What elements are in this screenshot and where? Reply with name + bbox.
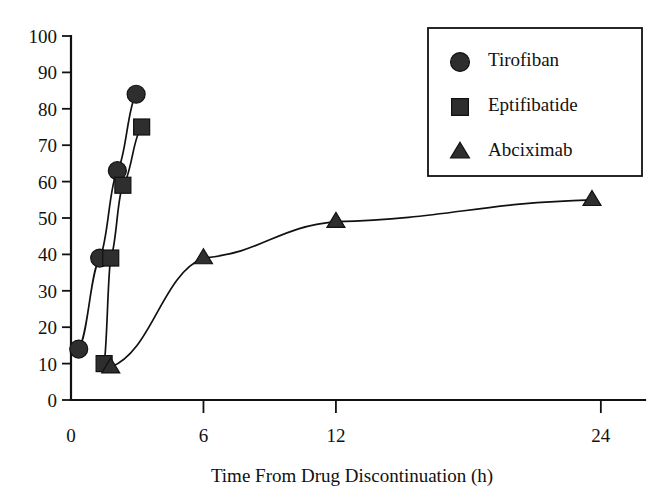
data-point-abciximab-2 — [327, 212, 345, 227]
data-point-eptifibatide-2 — [115, 177, 131, 193]
legend-marker-tirofiban — [451, 53, 470, 72]
legend-label-tirofiban: Tirofiban — [488, 49, 560, 70]
legend-marker-eptifibatide — [452, 99, 469, 116]
y-tick-label-90: 90 — [38, 62, 57, 83]
x-tick-label-6: 6 — [199, 425, 209, 446]
y-tick-label-100: 100 — [29, 26, 58, 47]
y-tick-label-10: 10 — [38, 354, 57, 375]
series-abciximab — [102, 191, 601, 373]
y-tick-label-50: 50 — [38, 208, 57, 229]
x-axis-title: Time From Drug Discontinuation (h) — [211, 465, 493, 487]
x-axis: 061224 — [66, 400, 645, 446]
y-tick-label-70: 70 — [38, 135, 57, 156]
drug-platelet-recovery-chart: 0102030405060708090100 061224 TirofibanE… — [0, 0, 658, 498]
legend-label-abciximab: Abciximab — [488, 139, 572, 160]
data-point-eptifibatide-1 — [103, 250, 119, 266]
x-tick-label-0: 0 — [66, 425, 76, 446]
chart-container: 0102030405060708090100 061224 TirofibanE… — [0, 0, 658, 498]
series-line-abciximab — [111, 200, 592, 367]
y-tick-label-20: 20 — [38, 317, 57, 338]
data-point-tirofiban-3 — [127, 85, 145, 103]
data-point-tirofiban-0 — [70, 340, 88, 358]
y-tick-label-80: 80 — [38, 99, 57, 120]
data-point-eptifibatide-3 — [134, 119, 150, 135]
y-tick-label-0: 0 — [48, 390, 58, 411]
y-tick-label-30: 30 — [38, 281, 57, 302]
chart-legend: TirofibanEptifibatideAbciximab — [428, 28, 642, 176]
y-tick-label-60: 60 — [38, 172, 57, 193]
data-point-abciximab-3 — [583, 191, 601, 206]
y-axis: 0102030405060708090100 — [29, 26, 72, 411]
data-point-abciximab-1 — [194, 249, 212, 264]
y-tick-label-40: 40 — [38, 244, 57, 265]
legend-label-eptifibatide: Eptifibatide — [488, 94, 578, 115]
x-tick-label-24: 24 — [591, 425, 611, 446]
series-line-eptifibatide — [104, 127, 142, 364]
x-tick-label-12: 12 — [326, 425, 345, 446]
